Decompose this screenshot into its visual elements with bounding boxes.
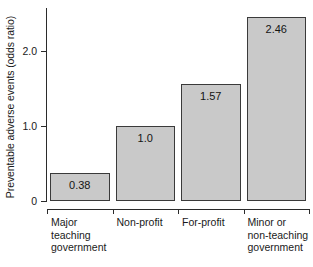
bar-slot: 1.57 [178,8,244,202]
bar[interactable]: 1.0 [116,126,176,201]
y-axis-tick-label: 1.0 [3,121,37,132]
x-axis-category-label: Minor or non-teaching government [248,216,310,254]
bar-value-label: 1.57 [182,90,240,102]
bar[interactable]: 0.38 [50,173,110,201]
x-axis-category-label: Major teaching government [51,216,113,254]
x-axis-tick [309,209,310,214]
x-axis-category-label: Non-profit [117,216,179,229]
bar-value-label: 1.0 [117,132,175,144]
x-axis-tick [178,209,179,214]
bar-value-label: 2.46 [248,23,306,35]
y-axis-tick-label: 0 [3,196,37,207]
bar-slot: 2.46 [244,8,310,202]
bar-slot: 1.0 [113,8,179,202]
x-axis-tick [244,209,245,214]
plot-area: 0.381.01.572.46 [47,8,309,202]
x-axis-tick [113,209,114,214]
x-axis-tick [47,209,48,214]
bar-chart-figure: Preventable adverse events (odds ratio) … [0,0,313,267]
bar-slot: 0.38 [47,8,113,202]
bar[interactable]: 2.46 [247,17,307,201]
x-axis-category-label: For-profit [182,216,244,229]
y-axis-tick-label: 2.0 [3,46,37,57]
bar-value-label: 0.38 [51,179,109,191]
y-axis-title: Preventable adverse events (odds ratio) [2,2,18,212]
bar[interactable]: 1.57 [181,84,241,201]
